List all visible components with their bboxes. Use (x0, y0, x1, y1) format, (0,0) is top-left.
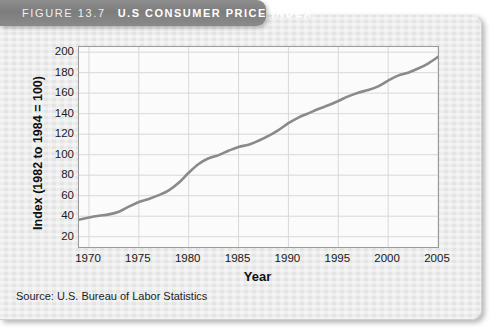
y-tick-label: 140 (32, 107, 74, 119)
cpi-line-series (79, 47, 438, 247)
y-tick-label: 100 (32, 148, 74, 160)
y-tick-label: 160 (32, 86, 74, 98)
y-tick-label: 20 (32, 230, 74, 242)
figure-title-tab: FIGURE 13.7 U.S CONSUMER PRICE INDEX (0, 0, 266, 26)
figure-number-label: FIGURE 13.7 (22, 7, 106, 19)
y-tick-label: 120 (32, 127, 74, 139)
y-tick-label: 60 (32, 189, 74, 201)
figure-title-text: U.S CONSUMER PRICE INDEX (118, 7, 313, 19)
y-tick-label: 80 (32, 168, 74, 180)
y-tick-label: 180 (32, 66, 74, 78)
x-tick-label: 2005 (407, 252, 467, 264)
chart-area: Index (1982 to 1984 = 100) 2001801601401… (0, 26, 482, 306)
y-axis-ticks: 20018016014012010080604020 (26, 46, 74, 246)
x-axis-title: Year (78, 269, 437, 284)
plot-frame (78, 46, 439, 248)
y-tick-label: 40 (32, 209, 74, 221)
source-note: Source: U.S. Bureau of Labor Statistics (16, 290, 207, 302)
x-axis-ticks: 19701975198019851990199520002005 (78, 252, 437, 268)
y-tick-label: 200 (32, 45, 74, 57)
